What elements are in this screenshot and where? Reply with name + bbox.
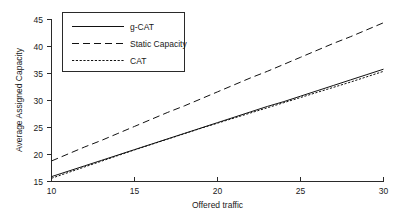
- legend-label-g-cat: g-CAT: [130, 22, 154, 32]
- chart-background: [0, 0, 406, 221]
- x-tick-label: 20: [213, 186, 223, 196]
- chart-legend: g-CAT Static Capacity CAT: [63, 13, 188, 72]
- x-tick-label: 15: [130, 186, 140, 196]
- legend-label-static-capacity: Static Capacity: [130, 39, 187, 49]
- y-tick-label: 35: [34, 69, 44, 79]
- x-tick-label: 25: [296, 186, 306, 196]
- y-tick-label: 45: [34, 15, 44, 25]
- chart-figure: 45 40 35 30 25 20 15 10 15 20 25 30 Offe…: [0, 0, 406, 221]
- y-tick-label: 15: [34, 177, 44, 187]
- y-tick-label: 25: [34, 123, 44, 133]
- x-tick-label: 10: [47, 186, 57, 196]
- line-chart: 45 40 35 30 25 20 15 10 15 20 25 30 Offe…: [0, 0, 406, 221]
- y-axis-title: Average Assigned Capacity: [14, 47, 24, 152]
- legend-label-cat: CAT: [130, 56, 146, 66]
- y-tick-label: 20: [34, 150, 44, 160]
- x-tick-label: 30: [379, 186, 389, 196]
- x-axis-title: Offered traffic: [192, 200, 244, 210]
- y-tick-label: 30: [34, 96, 44, 106]
- y-tick-label: 40: [34, 42, 44, 52]
